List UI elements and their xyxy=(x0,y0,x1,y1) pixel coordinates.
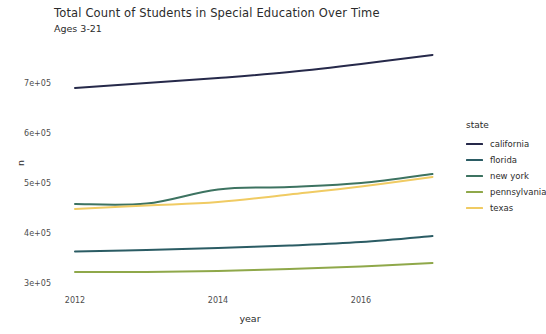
legend-item-new-york[interactable]: new york xyxy=(466,168,545,184)
x-axis-tick-labels: 201220142016 xyxy=(65,296,371,305)
legend-swatch-icon xyxy=(466,175,483,178)
legend: state californiafloridanew yorkpennsylva… xyxy=(466,120,545,216)
x-tick-label: 2012 xyxy=(65,296,85,305)
legend-swatch-icon xyxy=(466,207,483,210)
y-tick-label: 4e+05 xyxy=(24,229,51,238)
legend-swatch-icon xyxy=(466,159,483,162)
legend-item-label: florida xyxy=(490,155,517,165)
legend-swatch-icon xyxy=(466,191,483,194)
legend-swatch-icon xyxy=(466,143,483,146)
y-tick-label: 5e+05 xyxy=(24,179,51,188)
legend-item-label: new york xyxy=(490,171,529,181)
legend-item-label: pennsylvania xyxy=(490,187,546,197)
x-tick-label: 2014 xyxy=(208,296,228,305)
legend-item-pennsylvania[interactable]: pennsylvania xyxy=(466,184,545,200)
series-line-pennsylvania xyxy=(75,263,433,272)
x-tick-label: 2016 xyxy=(351,296,371,305)
x-axis-title: year xyxy=(239,313,260,324)
y-axis-tick-labels: 3e+054e+055e+056e+057e+05 xyxy=(24,79,51,288)
y-axis-title: n xyxy=(15,160,26,166)
series-line-new-york xyxy=(75,174,433,205)
legend-title: state xyxy=(466,120,545,130)
legend-item-florida[interactable]: florida xyxy=(466,152,545,168)
series-line-florida xyxy=(75,236,433,252)
legend-items: californiafloridanew yorkpennsylvaniatex… xyxy=(466,136,545,216)
y-tick-label: 6e+05 xyxy=(24,129,51,138)
legend-item-california[interactable]: california xyxy=(466,136,545,152)
series-lines xyxy=(75,55,433,272)
legend-item-texas[interactable]: texas xyxy=(466,200,545,216)
series-line-california xyxy=(75,55,433,88)
y-tick-label: 3e+05 xyxy=(24,279,51,288)
legend-item-label: california xyxy=(490,139,529,149)
legend-item-label: texas xyxy=(490,203,513,213)
y-tick-label: 7e+05 xyxy=(24,79,51,88)
